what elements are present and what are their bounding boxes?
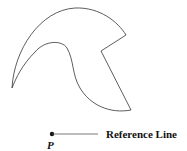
point-p-label: P [47,139,54,151]
diagram-canvas: Reference Line P [0,0,187,151]
hook-shape [12,8,131,111]
reference-line-label: Reference Line [106,128,177,140]
